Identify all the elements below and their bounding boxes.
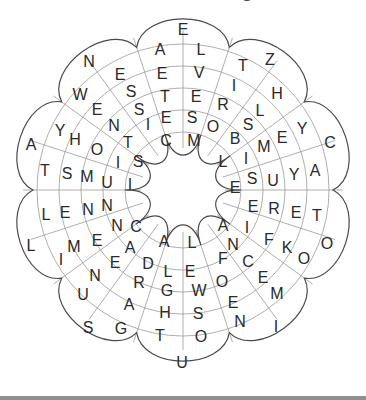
grid-letter[interactable]: I	[116, 155, 120, 171]
grid-letter[interactable]: U	[176, 355, 188, 371]
grid-letter[interactable]: E	[228, 295, 239, 311]
grid-letter[interactable]: E	[92, 233, 103, 249]
grid-letter[interactable]: I	[146, 117, 150, 133]
grid-letter[interactable]: I	[128, 177, 132, 193]
grid-letter[interactable]: T	[40, 163, 50, 179]
grid-letter[interactable]: N	[89, 268, 101, 284]
grid-letter[interactable]: O	[91, 142, 103, 158]
grid-letter[interactable]: A	[155, 42, 166, 58]
grid-letter[interactable]: O	[195, 329, 207, 345]
grid-letter[interactable]: S	[62, 166, 73, 182]
grid-letter[interactable]: B	[230, 131, 241, 147]
grid-letter[interactable]: N	[227, 237, 239, 253]
grid-letter[interactable]: S	[193, 306, 204, 322]
grid-letter[interactable]: C	[324, 135, 336, 151]
grid-letter[interactable]: N	[108, 118, 120, 134]
grid-letter[interactable]: L	[164, 264, 173, 280]
grid-letter[interactable]: T	[160, 89, 170, 105]
grid-letter[interactable]: S	[126, 84, 137, 100]
grid-letter[interactable]: V	[194, 65, 205, 81]
grid-letter[interactable]: H	[69, 132, 81, 148]
grid-letter[interactable]: T	[238, 58, 248, 74]
grid-letter[interactable]: Z	[265, 52, 275, 68]
grid-letter[interactable]: A	[310, 163, 321, 179]
grid-letter[interactable]: E	[248, 199, 259, 215]
grid-letter[interactable]: C	[160, 133, 172, 149]
grid-letter[interactable]: A	[218, 218, 229, 234]
grid-letter[interactable]: O	[216, 274, 228, 290]
grid-letter[interactable]: H	[159, 305, 171, 321]
grid-letter[interactable]: M	[67, 239, 80, 255]
grid-letter[interactable]: A	[159, 234, 170, 250]
grid-letter[interactable]: I	[244, 151, 248, 167]
grid-letter[interactable]: O	[207, 119, 219, 135]
grid-letter[interactable]: M	[187, 133, 200, 149]
grid-letter[interactable]: E	[258, 270, 269, 286]
grid-letter[interactable]: U	[77, 287, 89, 303]
grid-letter[interactable]: L	[197, 42, 206, 58]
grid-letter[interactable]: N	[101, 198, 113, 214]
grid-letter[interactable]: T	[312, 208, 322, 224]
grid-letter[interactable]: O	[321, 236, 333, 252]
grid-letter[interactable]: E	[185, 264, 196, 280]
grid-letter[interactable]: U	[267, 173, 279, 189]
grid-letter[interactable]: S	[133, 154, 144, 170]
grid-letter[interactable]: E	[277, 130, 288, 146]
grid-letter[interactable]: M	[80, 169, 93, 185]
grid-letter[interactable]: K	[282, 240, 293, 256]
grid-letter[interactable]: G	[115, 321, 127, 337]
grid-letter[interactable]: E	[92, 102, 103, 118]
grid-letter[interactable]: E	[157, 66, 168, 82]
grid-letter[interactable]: A	[125, 240, 136, 256]
grid-letter[interactable]: U	[101, 175, 113, 191]
grid-letter[interactable]: I	[274, 319, 278, 335]
grid-letter[interactable]: O	[298, 251, 310, 267]
grid-letter[interactable]: L	[27, 238, 36, 254]
grid-letter[interactable]: H	[271, 86, 283, 102]
grid-letter[interactable]: E	[110, 255, 121, 271]
grid-letter[interactable]: C	[242, 254, 254, 270]
grid-letter[interactable]: N	[234, 314, 246, 330]
grid-letter[interactable]: E	[178, 22, 189, 38]
grid-letter[interactable]: I	[245, 220, 249, 236]
grid-letter[interactable]: L	[188, 235, 197, 251]
grid-letter[interactable]: Y	[297, 121, 308, 137]
grid-letter[interactable]: Y	[289, 167, 300, 183]
grid-letter[interactable]: L	[256, 103, 265, 119]
grid-letter[interactable]: S	[187, 110, 198, 126]
grid-letter[interactable]: W	[191, 283, 206, 299]
grid-letter[interactable]: W	[72, 87, 87, 103]
grid-letter[interactable]: S	[243, 117, 254, 133]
grid-letter[interactable]: N	[111, 218, 123, 234]
grid-letter[interactable]: E	[191, 89, 202, 105]
grid-letter[interactable]: E	[230, 180, 241, 196]
grid-letter[interactable]: F	[264, 232, 274, 248]
grid-letter[interactable]: M	[270, 286, 283, 302]
grid-letter[interactable]: T	[155, 328, 165, 344]
grid-letter[interactable]: C	[130, 219, 142, 235]
grid-letter[interactable]: E	[291, 205, 302, 221]
grid-letter[interactable]: I	[232, 78, 236, 94]
grid-letter[interactable]: S	[134, 102, 145, 118]
grid-letter[interactable]: F	[218, 251, 228, 267]
grid-letter[interactable]: A	[26, 137, 37, 153]
grid-letter[interactable]: E	[161, 110, 172, 126]
grid-letter[interactable]: N	[83, 54, 95, 70]
grid-letter[interactable]: N	[82, 202, 94, 218]
grid-letter[interactable]: R	[133, 275, 145, 291]
grid-letter[interactable]: G	[161, 283, 173, 299]
grid-letter[interactable]: Y	[55, 123, 66, 139]
grid-letter[interactable]: L	[42, 207, 51, 223]
grid-letter[interactable]: A	[124, 297, 135, 313]
grid-letter[interactable]: S	[83, 320, 94, 336]
grid-letter[interactable]: S	[247, 171, 258, 187]
grid-letter[interactable]: L	[219, 154, 228, 170]
grid-letter[interactable]: M	[257, 139, 270, 155]
grid-letter[interactable]: R	[268, 201, 280, 217]
grid-letter[interactable]: I	[59, 252, 63, 268]
grid-letter[interactable]: D	[142, 256, 154, 272]
grid-letter[interactable]: T	[123, 135, 133, 151]
grid-letter[interactable]: E	[60, 205, 71, 221]
grid-letter[interactable]: R	[217, 97, 229, 113]
grid-letter[interactable]: E	[115, 67, 126, 83]
